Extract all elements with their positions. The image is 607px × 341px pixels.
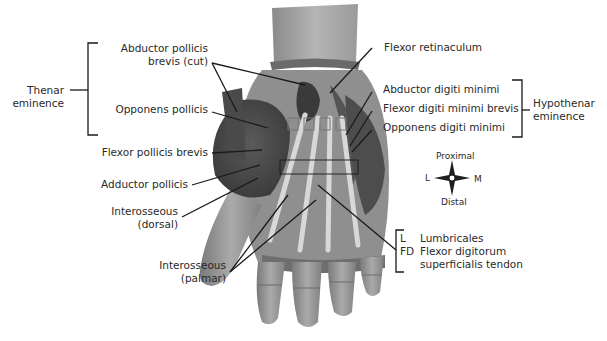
hand-anatomy-diagram: Thenar eminence Abductor pollicis brevis… <box>0 0 607 341</box>
label-abductor-pollicis-brevis: Abductor pollicis brevis (cut) <box>100 42 208 68</box>
middle-finger <box>292 262 322 327</box>
hand-illustration <box>0 0 607 341</box>
little-finger <box>360 256 384 296</box>
label-flexor-digiti-minimi-brevis: Flexor digiti minimi brevis <box>383 102 519 115</box>
label-flexor-retinaculum: Flexor retinaculum <box>384 41 482 54</box>
key-lumbricales-abbr: L <box>400 232 406 245</box>
label-opponens-pollicis: Opponens pollicis <box>100 103 208 116</box>
thenar-eminence-label: Thenar eminence <box>4 84 64 110</box>
ring-finger <box>328 262 356 316</box>
key-fd-text: Flexor digitorum superficialis tendon <box>420 245 523 271</box>
compass-proximal-label: Proximal <box>436 150 475 163</box>
compass-lateral-label: L <box>425 172 430 185</box>
forearm <box>272 4 358 64</box>
key-lumbricales-text: Lumbricales <box>420 232 484 245</box>
index-finger <box>257 262 285 324</box>
label-interosseous-palmar: Interosseous (palmar) <box>130 259 226 285</box>
label-opponens-digiti-minimi: Opponens digiti minimi <box>383 121 505 134</box>
label-adductor-pollicis: Adductor pollicis <box>80 178 188 191</box>
compass-distal-label: Distal <box>441 196 467 209</box>
label-interosseous-dorsal: Interosseous (dorsal) <box>80 205 178 231</box>
compass-medial-label: M <box>474 173 482 186</box>
key-fd-abbr: FD <box>400 245 414 258</box>
orientation-compass-icon <box>434 160 470 196</box>
label-abductor-digiti-minimi: Abductor digiti minimi <box>383 83 500 96</box>
label-flexor-pollicis-brevis: Flexor pollicis brevis <box>90 146 208 159</box>
hypothenar-eminence-label: Hypothenar eminence <box>533 97 595 123</box>
